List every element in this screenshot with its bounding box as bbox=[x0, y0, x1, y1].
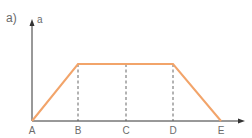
x-label-d: D bbox=[169, 125, 176, 136]
x-label-c: C bbox=[122, 125, 129, 136]
x-label-a: A bbox=[29, 125, 36, 136]
x-label-b: B bbox=[75, 125, 82, 136]
panel-label: a) bbox=[6, 11, 17, 25]
x-axis-arrow-icon bbox=[238, 119, 245, 124]
trapezoid-curve bbox=[32, 64, 221, 121]
y-axis-arrow-icon bbox=[30, 19, 35, 26]
y-axis-label: a bbox=[37, 14, 43, 25]
diagram-canvas: a) a A B C D E bbox=[0, 0, 252, 138]
x-label-e: E bbox=[218, 125, 225, 136]
